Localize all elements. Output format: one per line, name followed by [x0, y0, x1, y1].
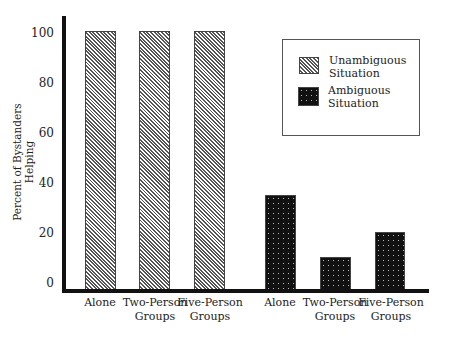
bar-ambiguous-two-person: [320, 257, 351, 290]
x-label-five-person-2: Five-PersonGroups: [356, 296, 426, 324]
y-tick-60: 60: [24, 126, 54, 140]
y-tick-80: 80: [24, 76, 54, 90]
x-axis-line: [62, 289, 429, 293]
legend-swatch-unambiguous: [299, 57, 319, 74]
bar-ambiguous-five-person: [375, 232, 405, 290]
y-axis-label: Percent of Bystanders Helping: [11, 87, 35, 237]
legend-label-unambiguous: UnambiguousSituation: [329, 54, 406, 80]
bar-unambiguous-five-person: [194, 31, 225, 290]
y-axis-line: [62, 16, 66, 293]
bar-unambiguous-two-person: [139, 31, 170, 290]
y-tick-100: 100: [24, 26, 54, 40]
x-label-five-person-1: Five-PersonGroups: [175, 296, 245, 324]
y-tick-20: 20: [24, 226, 54, 240]
legend-swatch-ambiguous: [298, 87, 319, 106]
legend-label-ambiguous: AmbiguousSituation: [328, 84, 390, 110]
y-tick-40: 40: [24, 176, 54, 190]
bar-unambiguous-alone: [85, 31, 116, 290]
bar-ambiguous-alone: [265, 195, 296, 290]
y-tick-0: 0: [24, 276, 54, 290]
